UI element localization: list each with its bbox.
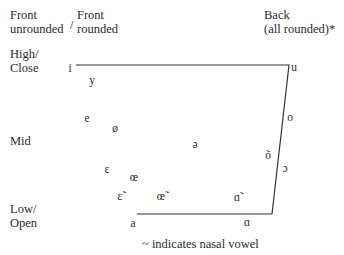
height-high-close: High/ Close xyxy=(10,47,38,75)
height-high-line1: High/ xyxy=(10,47,38,61)
header-slash: / xyxy=(70,18,73,32)
header-back-line2: (all rounded)* xyxy=(264,22,335,36)
vowel-symbol: y xyxy=(89,74,95,86)
height-high-line2: Close xyxy=(10,61,38,75)
vowel-symbol: ɑ̃ xyxy=(234,191,240,203)
vowel-symbol: ɑ xyxy=(244,216,250,228)
vowel-symbol: œ̃ xyxy=(157,190,165,202)
vowel-symbol: o xyxy=(287,111,293,123)
height-low-line1: Low/ xyxy=(10,202,37,216)
vowel-trapezoid xyxy=(0,0,344,255)
header-front-unrounded: Front unrounded xyxy=(10,8,63,36)
vowel-symbol: õ xyxy=(265,149,271,161)
vowel-symbol: ɛ xyxy=(105,163,110,175)
vowel-symbol: e xyxy=(84,112,89,124)
footnote-nasal: ~ indicates nasal vowel xyxy=(142,237,259,251)
header-front-unrounded-line2: unrounded xyxy=(10,22,63,36)
vowel-symbol: i xyxy=(68,62,71,74)
vowel-symbol: a xyxy=(130,217,135,229)
height-low-line2: Open xyxy=(10,216,37,230)
vowel-symbol: ɔ xyxy=(282,162,287,174)
height-low-open: Low/ Open xyxy=(10,202,37,230)
header-front-rounded-line1: Front xyxy=(77,8,118,22)
vowel-symbol: ə xyxy=(192,138,197,150)
vowel-symbol: ø xyxy=(112,122,118,134)
vowel-symbol: œ xyxy=(130,171,138,183)
height-mid: Mid xyxy=(10,134,31,148)
header-front-rounded: Front rounded xyxy=(77,8,118,36)
vowel-symbol: u xyxy=(291,61,297,73)
vowel-symbol: ɛ̃ xyxy=(118,190,123,202)
header-front-rounded-line2: rounded xyxy=(77,22,118,36)
header-back: Back (all rounded)* xyxy=(264,8,335,36)
header-front-unrounded-line1: Front xyxy=(10,8,63,22)
header-back-line1: Back xyxy=(264,8,335,22)
trapezoid-outline xyxy=(76,65,289,214)
